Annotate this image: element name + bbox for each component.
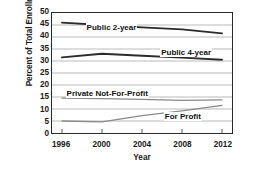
x-tick-label: 2008 [162, 140, 202, 149]
y-tick-label: 20 [28, 81, 49, 89]
y-tick-label: 25 [28, 69, 49, 77]
plot-area [51, 12, 233, 134]
x-axis-title: Year [51, 153, 233, 162]
y-tick-label: 50 [28, 8, 49, 16]
x-tick-label: 1996 [41, 140, 81, 149]
series-line-private-not-for-profit [62, 98, 222, 100]
series-label: Public 2-year [86, 23, 138, 32]
x-tick-label: 2004 [122, 140, 162, 149]
y-tick-label: 35 [28, 45, 49, 53]
x-tick-label: 2012 [203, 140, 243, 149]
series-label: For Profit [164, 112, 202, 121]
series-canvas [52, 13, 232, 133]
y-tick-label: 5 [28, 118, 49, 126]
y-tick-label: 0 [28, 130, 49, 138]
series-label: Public 4-year [160, 48, 212, 57]
x-axis-tick-labels: 19962000200420082012 [51, 140, 233, 152]
y-tick-label: 40 [28, 32, 49, 40]
y-tick-label: 10 [28, 106, 49, 114]
y-tick-label: 30 [28, 57, 49, 65]
series-label: Private Not-For-Profit [66, 89, 149, 98]
y-tick-label: 45 [28, 20, 49, 28]
y-tick-label: 15 [28, 93, 49, 101]
x-tick-label: 2000 [82, 140, 122, 149]
chart-figure: Percent of Total Enrollment 504540353025… [0, 0, 263, 175]
